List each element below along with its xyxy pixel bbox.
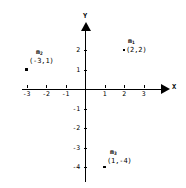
y-tick-mark — [84, 128, 87, 129]
x-tick-mark — [124, 85, 125, 88]
data-point-subscript: 3 — [114, 151, 117, 156]
point-marker-icon — [25, 68, 27, 70]
data-point-name-m1: m1 — [128, 38, 135, 45]
coordinate-plane-figure: X Y -3 -2 -1 1 2 3 2 1 -1 -2 -3 -4 m1 (2… — [0, 0, 186, 188]
x-tick-label: -2 — [42, 91, 49, 98]
data-point-subscript: 2 — [40, 51, 43, 56]
y-tick-label: -2 — [73, 125, 80, 132]
x-tick-mark — [66, 85, 67, 88]
y-tick-label: -3 — [73, 144, 80, 151]
x-axis-label: X — [172, 84, 176, 91]
data-point-name-m2: m2 — [36, 49, 43, 56]
y-tick-mark — [84, 50, 87, 51]
x-tick-mark — [46, 85, 47, 88]
data-point-name-m3: m3 — [110, 149, 117, 156]
y-axis-label: Y — [83, 13, 87, 20]
y-tick-mark — [84, 148, 87, 149]
point-marker-icon — [123, 49, 125, 51]
data-point-coord-m1: (2,2) — [126, 46, 147, 54]
x-tick-mark — [105, 85, 106, 88]
x-tick-mark — [144, 85, 145, 88]
x-tick-label: 3 — [142, 91, 146, 98]
y-tick-label: 2 — [76, 47, 80, 54]
x-tick-label: -3 — [23, 91, 30, 98]
y-tick-mark — [84, 167, 87, 168]
y-tick-mark — [84, 109, 87, 110]
x-axis-arrowhead-icon — [161, 84, 170, 94]
y-tick-label: 1 — [76, 66, 80, 73]
y-axis-arrowhead-icon — [81, 22, 91, 31]
x-tick-label: -1 — [62, 91, 69, 98]
y-tick-mark — [84, 70, 87, 71]
y-tick-label: -4 — [73, 164, 80, 171]
y-axis-line — [85, 25, 86, 182]
data-point-subscript: 1 — [132, 40, 135, 45]
x-tick-mark — [27, 85, 28, 88]
data-point-coord-m2: (-3,1) — [29, 57, 54, 65]
point-marker-icon — [103, 166, 105, 168]
x-tick-label: 1 — [103, 91, 107, 98]
data-point-coord-m3: (1,-4) — [107, 157, 132, 165]
x-tick-label: 2 — [122, 91, 126, 98]
y-tick-label: -1 — [73, 105, 80, 112]
